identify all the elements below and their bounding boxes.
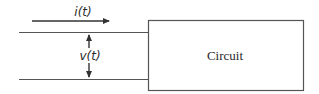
circuit-block-label: Circuit — [207, 48, 243, 63]
voltage-label: v(t) — [79, 49, 100, 63]
current-label: i(t) — [74, 5, 91, 19]
circuit-diagram: i(t) v(t) Circuit — [0, 0, 319, 94]
